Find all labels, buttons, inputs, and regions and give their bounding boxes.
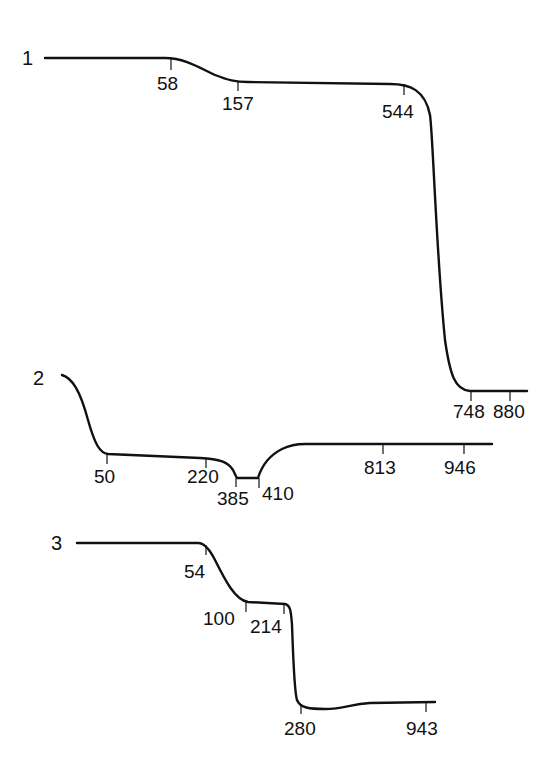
curve-3: 3 54 100 214 280 943 (51, 532, 438, 739)
curve-3-label: 3 (51, 532, 62, 554)
tick-label-100: 100 (203, 608, 235, 629)
tick-label-946: 946 (444, 457, 476, 478)
tick-label-54: 54 (184, 561, 206, 582)
tick-label-220: 220 (187, 466, 219, 487)
tg-curves-figure: 1 58 157 544 748 880 2 50 220 385 410 81… (0, 0, 559, 779)
tick-label-880: 880 (493, 401, 525, 422)
curve-1-label: 1 (22, 47, 33, 69)
curve-1: 1 58 157 544 748 880 (22, 47, 527, 422)
tick-label-58: 58 (157, 73, 178, 94)
curve-2-label: 2 (33, 367, 44, 389)
tick-label-385: 385 (217, 488, 249, 509)
curve-2: 2 50 220 385 410 813 946 (33, 367, 492, 509)
tick-label-410: 410 (262, 483, 294, 504)
tick-label-943: 943 (406, 718, 438, 739)
curve-2-line (62, 375, 492, 478)
tick-label-280: 280 (284, 718, 316, 739)
tick-label-813: 813 (364, 457, 396, 478)
tick-label-50: 50 (94, 466, 115, 487)
tick-label-157: 157 (222, 93, 254, 114)
tick-label-214: 214 (250, 616, 282, 637)
curve-1-line (45, 58, 527, 391)
tick-label-748: 748 (453, 401, 485, 422)
tick-label-544: 544 (382, 101, 414, 122)
